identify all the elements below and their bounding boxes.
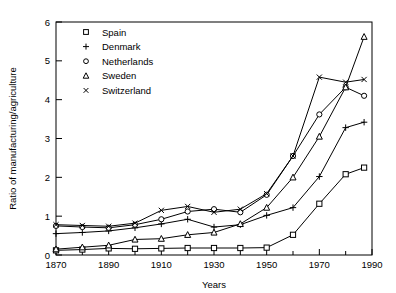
x-tick-label: 1970 — [309, 259, 330, 270]
marker-square — [238, 245, 243, 250]
y-tick-label: 5 — [45, 55, 50, 66]
x-tick-label: 1870 — [45, 259, 66, 270]
series-line — [56, 168, 364, 251]
y-tick-label: 2 — [45, 172, 50, 183]
marker-square — [132, 246, 137, 251]
marker-circle — [185, 209, 190, 214]
legend-item-netherlands[interactable]: Netherlands — [84, 56, 154, 67]
y-axis-title: Ratio of manufacturing/agriculture — [7, 67, 18, 210]
x-tick-label: 1950 — [256, 259, 277, 270]
series-sweden — [53, 34, 367, 252]
marker-circle — [362, 93, 367, 98]
marker-square — [317, 201, 322, 206]
legend-item-switzerland[interactable]: Switzerland — [84, 85, 152, 96]
marker-triangle — [83, 73, 89, 78]
x-axis-title: Years — [202, 279, 226, 290]
legend: SpainDenmarkNetherlandsSwedenSwitzerland — [83, 27, 153, 96]
marker-circle — [84, 59, 89, 64]
x-tick-label: 1890 — [98, 259, 119, 270]
y-tick-label: 1 — [45, 211, 50, 222]
series-line — [56, 37, 364, 249]
x-tick-label: 1990 — [361, 259, 382, 270]
chart-figure: 1870189019101930195019701990Years0123456… — [0, 0, 396, 293]
x-tick-label: 1930 — [203, 259, 224, 270]
marker-triangle — [361, 34, 367, 40]
marker-square — [211, 245, 216, 250]
marker-square — [159, 246, 164, 251]
x-tick-label: 1910 — [151, 259, 172, 270]
y-tick-label: 3 — [45, 133, 50, 144]
legend-item-denmark[interactable]: Denmark — [83, 41, 141, 52]
legend-item-spain[interactable]: Spain — [84, 27, 127, 38]
marker-square — [264, 245, 269, 250]
marker-square — [290, 232, 295, 237]
marker-triangle — [316, 133, 322, 139]
legend-item-sweden[interactable]: Sweden — [83, 70, 136, 81]
marker-square — [84, 30, 89, 35]
marker-triangle — [290, 174, 296, 180]
legend-label: Switzerland — [102, 85, 151, 96]
legend-label: Sweden — [102, 70, 136, 81]
y-tick-label: 6 — [45, 17, 50, 28]
line-chart: 1870189019101930195019701990Years0123456… — [0, 0, 396, 293]
series-netherlands — [53, 85, 366, 231]
marker-circle — [159, 217, 164, 222]
legend-label: Denmark — [102, 41, 141, 52]
marker-square — [343, 172, 348, 177]
legend-label: Spain — [102, 27, 126, 38]
legend-label: Netherlands — [102, 56, 153, 67]
y-tick-label: 4 — [45, 94, 50, 105]
y-tick-label: 0 — [45, 250, 50, 261]
marker-square — [362, 165, 367, 170]
marker-circle — [317, 112, 322, 117]
marker-square — [185, 245, 190, 250]
